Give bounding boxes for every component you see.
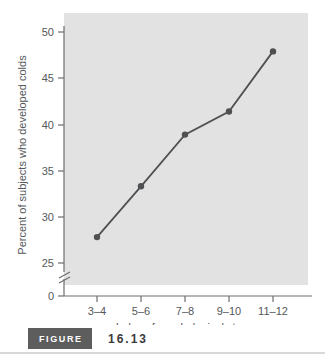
x-tick-label-5: 11–12 (258, 305, 288, 317)
data-point (182, 131, 188, 137)
figure-container: 50 45 40 35 30 25 0 3–4 5–6 7–8 9–10 11–… (0, 0, 325, 325)
data-point (270, 48, 276, 54)
y-tick-label-50: 50 (42, 26, 54, 38)
y-tick-label-30: 30 (42, 211, 54, 223)
x-tick-label-2: 5–6 (132, 305, 150, 317)
y-tick-label-40: 40 (42, 119, 54, 131)
data-point (226, 108, 232, 114)
x-axis-title: Index of psychological stress (116, 321, 257, 325)
y-tick-label-35: 35 (42, 165, 54, 177)
x-tick-label-1: 3–4 (88, 305, 106, 317)
y-tick-label-0: 0 (48, 290, 54, 302)
line-chart: 50 45 40 35 30 25 0 3–4 5–6 7–8 9–10 11–… (0, 0, 325, 325)
caption-divider (0, 352, 325, 354)
figure-number: 16.13 (108, 328, 148, 349)
data-point (138, 183, 144, 189)
x-tick-label-3: 7–8 (176, 305, 194, 317)
data-point (94, 234, 100, 240)
y-axis-title: Percent of subjects who developed colds (16, 55, 28, 255)
x-tick-label-4: 9–10 (217, 305, 241, 317)
y-tick-label-45: 45 (42, 72, 54, 84)
y-tick-label-25: 25 (42, 257, 54, 269)
y-axis-ticks (58, 32, 64, 296)
figure-badge-label: FIGURE (37, 334, 82, 344)
x-axis-ticks (97, 296, 273, 302)
figure-caption: FIGURE 16.13 (0, 326, 325, 362)
figure-badge: FIGURE (28, 328, 92, 349)
